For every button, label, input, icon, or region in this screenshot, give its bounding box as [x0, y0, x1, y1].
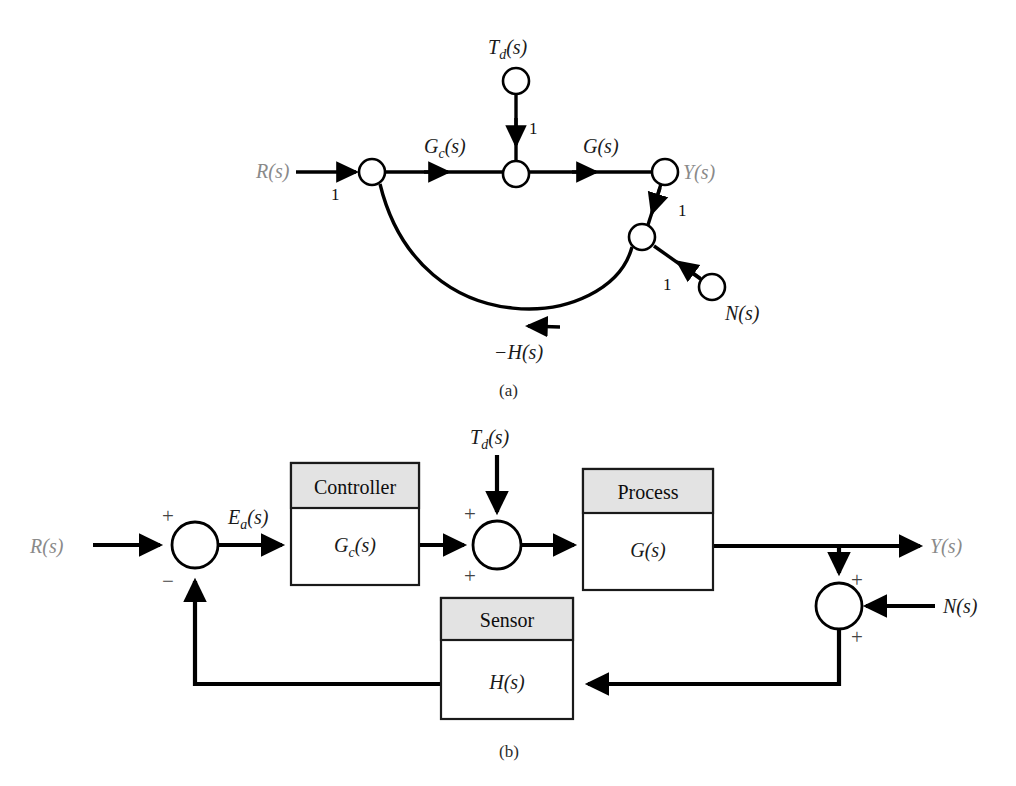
sfg-label-reference: R(s) [255, 160, 290, 183]
process-tf-tail: (s) [645, 539, 666, 562]
bd-label-error-main: E [227, 506, 240, 528]
control-system-figure: R(s) Td(s) Y(s) N(s) 1 Gc(s) 1 G(s) 1 1 … [0, 0, 1016, 786]
sfg-gain-noise: 1 [663, 275, 672, 294]
sfg-gain-input: 1 [331, 185, 340, 204]
sfg-gain-controller-tail: (s) [445, 135, 466, 158]
sfg-gain-feedback-prefix: − [494, 341, 508, 363]
controller-block: Controller Gc(s) [291, 463, 419, 585]
sfg-node-noise [699, 274, 725, 300]
bd-sign-error-plus: + [162, 504, 174, 528]
bd-disturbance-junction [473, 521, 521, 569]
sfg-gain-feedback-main: H(s) [507, 341, 544, 364]
sensor-block-transfer-function: H(s) [488, 671, 525, 694]
sensor-block-title: Sensor [480, 609, 535, 631]
bd-label-reference: R(s) [29, 535, 64, 558]
bd-sign-error-minus: − [162, 569, 174, 593]
controller-block-title: Controller [314, 476, 397, 498]
sensor-tf-tail: (s) [504, 671, 525, 694]
sensor-block: Sensor H(s) [441, 598, 573, 719]
sfg-gain-controller-main: G [424, 135, 439, 157]
sfg-node-sum [503, 161, 529, 187]
sfg-gain-feedback: −H(s) [494, 341, 543, 364]
controller-tf-main: G [334, 534, 349, 556]
process-tf-main: G [630, 539, 645, 561]
bd-sign-noise-plus-top: + [851, 568, 863, 592]
caption-a: (a) [499, 381, 518, 400]
sfg-node-output [652, 159, 678, 185]
sfg-label-noise: N(s) [724, 302, 760, 325]
sfg-node-mix [629, 224, 655, 250]
bd-sign-disturbance-plus-bottom: + [464, 564, 476, 588]
diagram-canvas: R(s) Td(s) Y(s) N(s) 1 Gc(s) 1 G(s) 1 1 … [0, 0, 1016, 786]
bd-label-output: Y(s) [930, 535, 963, 558]
bd-label-noise: N(s) [942, 595, 978, 618]
caption-b: (b) [499, 742, 519, 761]
sensor-tf-main: H [488, 671, 505, 693]
process-block-title: Process [617, 481, 678, 503]
bd-label-disturbance-tail: (s) [488, 426, 509, 449]
process-block: Process G(s) [583, 469, 713, 590]
sfg-edge-feedback-arrow [528, 326, 560, 327]
controller-tf-tail: (s) [355, 534, 376, 557]
sfg-label-output: Y(s) [683, 161, 716, 184]
sfg-gain-output: 1 [678, 201, 687, 220]
sfg-node-disturbance [503, 68, 529, 94]
bd-sign-disturbance-plus-top: + [464, 502, 476, 526]
bd-error-junction [172, 522, 218, 568]
bd-sign-noise-plus-bottom: + [851, 625, 863, 649]
bd-label-error-sub: a [240, 517, 247, 532]
sfg-gain-process: G(s) [583, 135, 619, 158]
process-block-transfer-function: G(s) [630, 539, 666, 562]
sfg-node-error [359, 159, 385, 185]
sfg-gain-disturbance: 1 [529, 119, 538, 138]
bd-label-error-tail: (s) [247, 506, 268, 529]
sfg-label-disturbance-tail: (s) [506, 36, 527, 59]
